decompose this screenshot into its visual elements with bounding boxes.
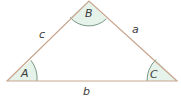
triangle-diagram: A B C c a b <box>0 0 181 99</box>
side-label-a: a <box>132 23 139 36</box>
vertex-label-a: A <box>20 67 29 80</box>
side-label-c: c <box>39 28 45 41</box>
vertex-label-b: B <box>85 7 93 20</box>
vertex-label-c: C <box>150 68 158 81</box>
triangle-svg: A B C c a b <box>0 0 181 99</box>
side-label-b: b <box>83 85 90 98</box>
